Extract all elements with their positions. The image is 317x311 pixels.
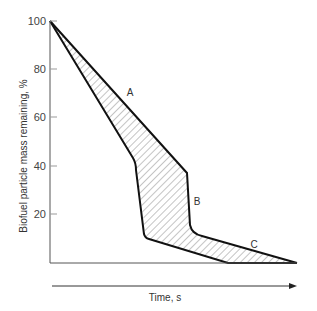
label-b: B [194, 196, 201, 207]
y-tick-label-40: 40 [34, 160, 46, 172]
label-a: A [127, 87, 134, 98]
label-c: C [250, 239, 257, 250]
y-ticks [50, 21, 57, 214]
y-tick-label-80: 80 [34, 63, 46, 75]
y-tick-label-20: 20 [34, 208, 46, 220]
y-axis-title: Biofuel particle mass remaining, % [18, 79, 29, 233]
x-axis-title: Time, s [149, 292, 181, 303]
y-tick-label-60: 60 [34, 111, 46, 123]
chart: 100 80 60 40 20 Biofuel particle mass re… [0, 0, 317, 311]
time-arrow-head-icon [289, 283, 297, 289]
y-tick-label-100: 100 [28, 15, 46, 27]
hatched-region [50, 21, 297, 263]
